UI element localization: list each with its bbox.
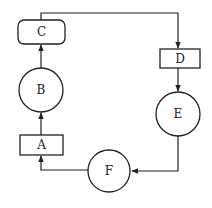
node-e: E xyxy=(156,92,200,136)
node-b: B xyxy=(19,68,63,112)
edge-e-to-f xyxy=(132,136,178,171)
node-a: A xyxy=(20,135,63,155)
node-a-label: A xyxy=(36,138,46,152)
node-d: D xyxy=(160,49,200,68)
node-e-label: E xyxy=(174,107,183,121)
node-f: F xyxy=(88,150,130,192)
node-b-label: B xyxy=(37,83,46,97)
node-d-label: D xyxy=(175,52,185,66)
flow-diagram: C B A D E F xyxy=(0,0,212,208)
node-f-label: F xyxy=(105,164,113,178)
edge-f-to-a xyxy=(41,156,88,170)
node-c: C xyxy=(18,20,65,44)
node-c-label: C xyxy=(37,25,46,39)
